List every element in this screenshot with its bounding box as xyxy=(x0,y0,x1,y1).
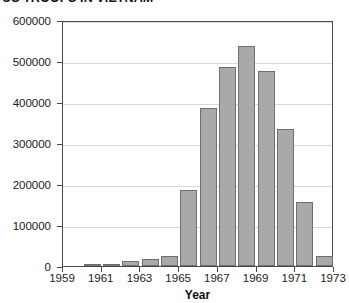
x-axis-tick-label: 1971 xyxy=(281,272,307,284)
bar xyxy=(180,190,197,266)
bar xyxy=(161,256,178,266)
bar xyxy=(200,108,217,266)
y-axis-tick-label: 500000 xyxy=(13,56,51,68)
bar xyxy=(122,261,139,266)
bar xyxy=(277,129,294,266)
x-axis-tick-label: 1963 xyxy=(127,272,153,284)
y-axis-tick-label: 300000 xyxy=(13,138,51,150)
x-axis-tick-label: 1959 xyxy=(49,272,75,284)
x-axis-tick-label: 1965 xyxy=(165,272,191,284)
x-axis-tick-label: 1961 xyxy=(88,272,114,284)
x-axis-tick-label: 1967 xyxy=(204,272,230,284)
bar xyxy=(84,264,101,266)
bar xyxy=(238,46,255,266)
plot-area xyxy=(62,21,333,267)
y-axis-tick-label: 400000 xyxy=(13,97,51,109)
x-axis-tick-label: 1973 xyxy=(320,272,346,284)
bar xyxy=(103,264,120,266)
y-axis-tick-label: 100000 xyxy=(13,220,51,232)
y-axis: 0100000200000300000400000500000600000 xyxy=(0,21,58,267)
bar xyxy=(142,259,159,266)
bar xyxy=(296,202,313,266)
bar xyxy=(258,71,275,266)
y-axis-tick-label: 600000 xyxy=(13,15,51,27)
chart-title: US TROOPS IN VIETNAM xyxy=(2,0,153,5)
x-axis-labels: 19591961196319651967196919711973 xyxy=(62,272,333,288)
bar xyxy=(316,256,333,266)
bar-chart: US TROOPS IN VIETNAM 0100000200000300000… xyxy=(0,0,349,303)
bar xyxy=(219,67,236,266)
bar-series xyxy=(63,22,332,266)
y-axis-tick-label: 200000 xyxy=(13,179,51,191)
x-axis-title: Year xyxy=(62,288,333,302)
x-axis-tick-label: 1969 xyxy=(243,272,269,284)
